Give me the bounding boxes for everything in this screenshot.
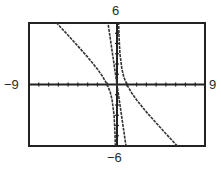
curve-1 xyxy=(43,8,116,147)
graph-canvas xyxy=(0,0,221,170)
curve-1 xyxy=(119,22,192,161)
y-min-label: −6 xyxy=(107,151,122,164)
x-min-label: −9 xyxy=(4,78,19,91)
x-max-label: 9 xyxy=(209,78,216,91)
y-max-label: 6 xyxy=(112,4,119,17)
